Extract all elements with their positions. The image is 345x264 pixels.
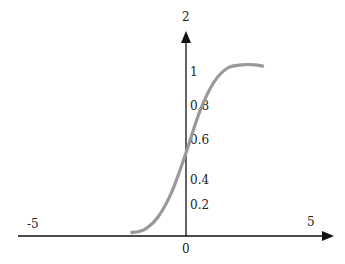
axes [18,31,334,241]
y-tick-label: 0.4 [190,173,209,187]
y-tick-label: 0.2 [190,198,209,212]
y-tick-label: 1 [190,65,198,79]
chart: -5050.20.40.60.812 [0,0,345,264]
x-tick-label: 5 [307,215,315,229]
x-tick-label: 0 [182,242,190,256]
y-tick-label: 2 [182,10,190,24]
x-axis-arrow [322,231,334,241]
x-tick-label: -5 [27,217,39,231]
y-axis-arrow [181,31,191,43]
